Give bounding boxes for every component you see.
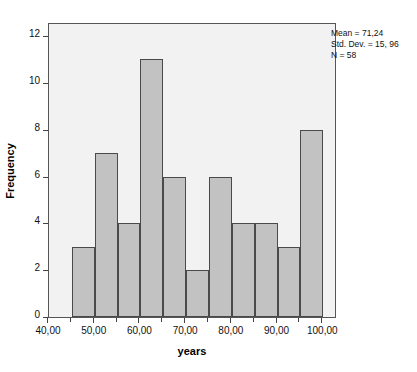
x-tick-label: 40,00 (35, 326, 60, 336)
x-axis-minor-tick (207, 318, 208, 322)
x-axis-minor-tick (161, 318, 162, 322)
x-tick-mark (276, 318, 277, 323)
histogram-bar (232, 223, 255, 317)
y-tick-label: 12 (29, 29, 40, 39)
x-tick-label: 60,00 (127, 326, 152, 336)
y-tick-label: 4 (34, 216, 40, 226)
stat-n: N = 58 (331, 50, 399, 61)
x-axis: 40,0050,0060,0070,0080,0090,00100,00 (48, 318, 336, 348)
x-tick-label: 90,00 (264, 326, 289, 336)
y-tick-label: 10 (29, 76, 40, 86)
x-axis-minor-tick (116, 318, 117, 322)
histogram-figure: Grafico Gaussiano Prueba Gaussiana Frequ… (0, 0, 417, 372)
histogram-bar (163, 177, 186, 317)
plot-area (49, 24, 335, 317)
x-axis-minor-tick (70, 318, 71, 322)
y-tick-label: 8 (34, 123, 40, 133)
y-tick-label: 0 (34, 310, 40, 320)
x-axis-title: years (48, 345, 336, 357)
y-tick-label: 6 (34, 170, 40, 180)
histogram-bar (209, 177, 232, 317)
histogram-bar (72, 247, 95, 317)
y-axis: 024681012 (0, 23, 48, 318)
x-tick-mark (47, 318, 48, 323)
x-tick-mark (138, 318, 139, 323)
stat-mean: Mean = 71,24 (331, 28, 399, 39)
x-tick-label: 80,00 (218, 326, 243, 336)
histogram-bar (186, 270, 209, 317)
x-tick-label: 70,00 (173, 326, 198, 336)
x-axis-minor-tick (253, 318, 254, 322)
histogram-bar (140, 59, 163, 317)
histogram-bar (255, 223, 278, 317)
x-tick-label: 100,00 (307, 326, 338, 336)
x-tick-label: 50,00 (81, 326, 106, 336)
statistics-annotation: Mean = 71,24 Std. Dev. = 15, 96 N = 58 (331, 28, 399, 62)
histogram-bar (95, 153, 118, 317)
plot-frame (48, 23, 336, 318)
histogram-bar (278, 247, 301, 317)
x-tick-mark (93, 318, 94, 323)
histogram-bar (118, 223, 141, 317)
stat-stddev: Std. Dev. = 15, 96 (331, 39, 399, 50)
histogram-bar (300, 130, 323, 317)
x-tick-mark (321, 318, 322, 323)
x-tick-mark (230, 318, 231, 323)
x-tick-mark (184, 318, 185, 323)
x-axis-minor-tick (298, 318, 299, 322)
y-tick-label: 2 (34, 263, 40, 273)
